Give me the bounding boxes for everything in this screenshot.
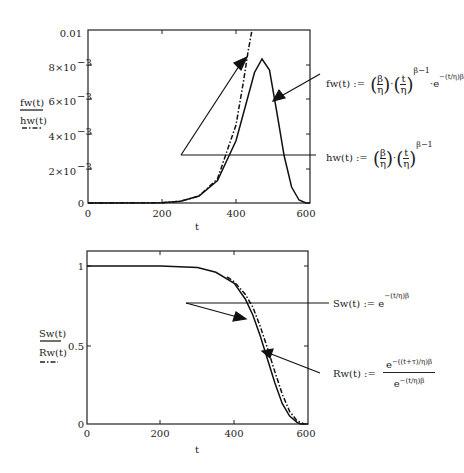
- fw-formula: fw(t) := (βη)·(tη)β−1·e−(t/η)β: [326, 66, 464, 95]
- top-ytick-8e-3: 8×10: [49, 62, 76, 73]
- top-legend-fw: fw(t): [20, 97, 44, 108]
- top-legend-hw: hw(t): [20, 115, 47, 126]
- hw-formula-lhs: hw(t) :=: [326, 152, 368, 163]
- bottom-legend-rw: Rw(t): [39, 347, 67, 358]
- top-xlabel: t: [195, 221, 199, 232]
- sw-formula: Sw(t) := e−(t/η)β: [333, 292, 409, 309]
- top-ytick-exp: −3: [77, 91, 92, 102]
- top-plot: 0.01 8×10 −3 6×10 −3 4×10 −3 2×10 −3 0 0…: [20, 28, 320, 232]
- hw-formula: hw(t) := (βη)·(tη)β−1: [326, 140, 433, 169]
- top-ytick-exp: −3: [77, 161, 92, 172]
- arrow-head-icon: [233, 312, 246, 321]
- bottom-plot: 1 0.5 0 0 200 400 600 t Sw(t) Rw(t): [39, 251, 329, 455]
- exponent: β−1: [414, 66, 430, 75]
- top-xtick-0: 0: [85, 208, 91, 219]
- top-ytick-6e-3: 6×10: [49, 96, 76, 107]
- top-xtick-200: 200: [152, 208, 171, 219]
- sw-curve: [87, 266, 308, 424]
- rw-formula-lhs: Rw(t) :=: [333, 368, 376, 379]
- bottom-ytick-1: 1: [78, 261, 84, 272]
- rw-fraction: e−((t+τ)/η)β e−(t/η)β: [383, 358, 435, 390]
- bottom-plot-frame: [87, 251, 308, 424]
- top-ytick-0: 0: [78, 198, 84, 209]
- exp-term: −(t/η)β: [439, 73, 464, 81]
- bottom-xtick-200: 200: [150, 428, 169, 439]
- top-ytick-4e-3: 4×10: [49, 131, 76, 142]
- rw-numerator: e−((t+τ)/η)β: [383, 358, 435, 372]
- sw-formula-lhs: Sw(t) := e: [333, 298, 384, 309]
- top-xtick-600: 600: [296, 208, 315, 219]
- top-ytick-exp: −3: [77, 126, 92, 137]
- fw-formula-lhs: fw(t) :=: [326, 78, 365, 89]
- top-plot-frame: [88, 30, 310, 203]
- top-xtick-400: 400: [226, 208, 245, 219]
- top-y-ticks: [88, 30, 310, 203]
- bottom-xlabel: t: [195, 444, 199, 455]
- top-ytick-exp: −3: [77, 57, 92, 68]
- exponent: β−1: [416, 140, 432, 149]
- hw-curve: [88, 30, 252, 203]
- arrow-head-icon: [234, 57, 247, 70]
- exp-term: −(t/η)β: [384, 292, 409, 300]
- top-ytick-0.01: 0.01: [60, 28, 82, 39]
- bottom-ytick-0.5: 0.5: [68, 341, 84, 352]
- bottom-ticks: [87, 251, 308, 424]
- fw-curve: [88, 59, 310, 203]
- bottom-legend-sw: Sw(t): [39, 328, 66, 339]
- top-ytick-2e-3: 2×10: [49, 166, 76, 177]
- rw-formula: Rw(t) := e−((t+τ)/η)β e−(t/η)β: [333, 358, 435, 390]
- arrow-head-icon: [262, 349, 273, 358]
- rw-denominator: e−(t/η)β: [383, 372, 435, 389]
- bottom-xtick-400: 400: [224, 428, 243, 439]
- top-annotations: [181, 57, 320, 155]
- arrow-head-icon: [273, 90, 285, 101]
- bottom-xtick-600: 600: [296, 428, 315, 439]
- bottom-xtick-0: 0: [84, 428, 90, 439]
